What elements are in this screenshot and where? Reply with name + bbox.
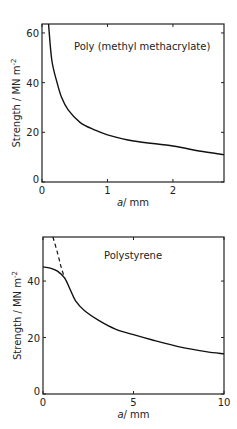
chart-panel-0: 0120204060a/ mmStrength / MN m-2Poly (me… <box>10 24 224 208</box>
chart-title: Poly (methyl methacrylate) <box>74 41 210 52</box>
y-tick-label: 0 <box>33 174 39 185</box>
charts-figure: 0120204060a/ mmStrength / MN m-2Poly (me… <box>0 0 237 429</box>
y-tick-label: 20 <box>27 333 40 344</box>
x-tick-label: 2 <box>170 185 176 196</box>
y-tick-label: 40 <box>27 276 40 287</box>
y-tick-label: 0 <box>34 386 40 397</box>
y-axis-label: Strength / MN m-2 <box>11 271 23 360</box>
x-tick-label: 0 <box>39 185 45 196</box>
y-tick-label: 60 <box>26 28 39 39</box>
x-tick-label: 0 <box>40 397 46 408</box>
chart-panel-1: 051002040a/ mmStrength / MN m-2Polystyre… <box>11 237 230 420</box>
x-axis-label: a/ mm <box>117 409 149 420</box>
x-tick-label: 1 <box>104 185 110 196</box>
y-axis-label: Strength / MN m-2 <box>10 59 22 148</box>
x-axis-label: a/ mm <box>117 197 149 208</box>
y-tick-label: 20 <box>26 127 39 138</box>
series-line <box>43 267 224 354</box>
x-tick-label: 5 <box>130 397 136 408</box>
chart-title: Polystyrene <box>104 250 162 261</box>
y-tick-label: 40 <box>26 78 39 89</box>
x-tick-label: 10 <box>218 397 231 408</box>
